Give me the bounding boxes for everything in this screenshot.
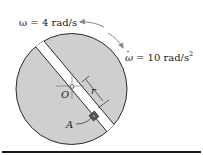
svg-text:2: 2	[189, 50, 193, 58]
omega-dot-arrow-icon	[108, 33, 123, 48]
omega-arrow-icon	[80, 22, 104, 27]
svg-text:ω: ω	[125, 52, 133, 63]
center-pivot-icon	[70, 85, 74, 89]
block-label-A: A	[65, 119, 73, 130]
rotating-disk-diagram: ω = 4 rad/s ω = 10 rad/s 2 O r A	[0, 0, 203, 155]
figure-bottom-rule	[2, 151, 201, 153]
center-label-O: O	[61, 89, 69, 100]
omega-label: ω = 4 rad/s	[19, 17, 77, 28]
omega-dot-label: ω = 10 rad/s 2	[125, 50, 193, 63]
svg-text:= 10 rad/s: = 10 rad/s	[136, 52, 189, 63]
